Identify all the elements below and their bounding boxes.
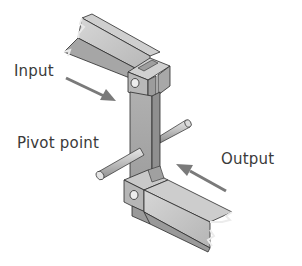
lever-diagram — [0, 0, 302, 266]
pivot-rod-back — [160, 119, 193, 143]
lower-pin-hole-icon — [130, 191, 138, 200]
upper-pin-hole-icon — [131, 79, 139, 88]
output-arrow-icon — [176, 164, 226, 191]
output-label: Output — [221, 150, 274, 168]
lower-beam — [144, 180, 232, 252]
input-label: Input — [14, 62, 54, 80]
pivot-point-label: Pivot point — [17, 134, 99, 152]
input-arrow-icon — [66, 78, 116, 101]
